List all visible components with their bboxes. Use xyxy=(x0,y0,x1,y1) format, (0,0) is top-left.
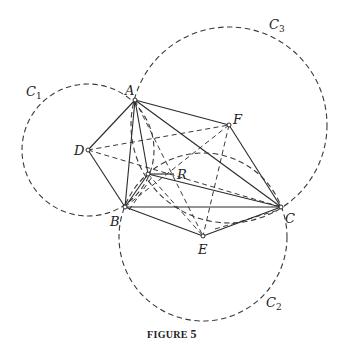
segment-a-d xyxy=(88,100,135,150)
label-a: A xyxy=(124,83,134,98)
label-r: R xyxy=(176,167,187,182)
segment-e-c xyxy=(203,207,281,236)
point-d xyxy=(86,148,90,152)
label-e: E xyxy=(197,242,208,257)
figure-caption: FIGURE 5 xyxy=(0,327,344,342)
point-b xyxy=(123,205,127,209)
caption-number: 5 xyxy=(191,327,197,341)
segment-r-e xyxy=(148,174,203,236)
label-b: B xyxy=(109,214,120,229)
segment-f-e xyxy=(203,125,229,236)
point-f xyxy=(227,123,231,127)
segment-b-r xyxy=(125,174,148,207)
point-a xyxy=(133,98,137,102)
label-c2: C2 xyxy=(266,295,282,312)
point-e xyxy=(201,234,205,238)
label-c3: C3 xyxy=(269,17,285,34)
segment-d-b xyxy=(88,150,125,207)
circle-labels: C1 C2 C3 xyxy=(26,17,285,312)
segment-a-b xyxy=(125,100,135,207)
label-f: F xyxy=(232,112,243,127)
circles xyxy=(22,27,327,321)
point-labels: A B C D E F R xyxy=(73,83,295,257)
geometry-figure: A B C D E F R C1 C2 C3 xyxy=(0,0,344,364)
caption-prefix: FIGURE xyxy=(147,329,188,340)
point-c xyxy=(279,205,283,209)
label-c1: C1 xyxy=(26,84,42,101)
label-c: C xyxy=(285,211,295,226)
segment-b-e xyxy=(125,207,203,236)
segment-b-r-parallel xyxy=(129,177,152,210)
label-d: D xyxy=(73,143,85,158)
segment-a-f xyxy=(135,100,229,125)
point-r xyxy=(146,172,150,176)
segment-a-e xyxy=(135,100,203,236)
segment-f-c xyxy=(229,125,281,207)
